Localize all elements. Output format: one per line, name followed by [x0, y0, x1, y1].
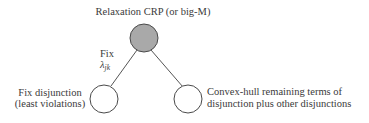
branch-tree-diagram: Relaxation CRP (or big-M) Fix λjk Fix di… [0, 0, 369, 123]
right-child-label-line2: disjunction plus other disjunctions [207, 98, 351, 109]
edge-label-fix: Fix [100, 48, 115, 59]
edge-label-lambda: λjk [99, 59, 111, 72]
root-node-label: Relaxation CRP (or big-M) [96, 6, 211, 18]
right-child-label-line1: Convex-hull remaining terms of [207, 86, 343, 97]
root-node [130, 24, 158, 52]
left-child-label-line2: (least violations) [15, 98, 86, 110]
lambda-subscript: jk [104, 63, 111, 72]
left-child-node [90, 85, 118, 113]
right-child-node [174, 85, 202, 113]
edge-right [151, 50, 183, 87]
edge-left [111, 50, 137, 86]
left-child-label-line1: Fix disjunction [18, 87, 82, 98]
